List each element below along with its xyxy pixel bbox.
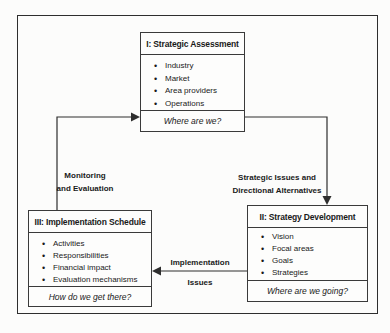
box-strategy-development: II: Strategy Development Vision Focal ar… xyxy=(247,205,368,302)
arrow-monitoring-line xyxy=(57,117,138,210)
arrow-label-line: and Evaluation xyxy=(40,182,130,195)
box-item-list: Industry Market Area providers Operation… xyxy=(141,55,244,110)
arrow-label-implementation-issues-top: Implementation xyxy=(158,256,242,269)
list-item: Area providers xyxy=(165,85,244,98)
arrow-label-implementation-issues-bottom: Issues xyxy=(158,276,242,289)
list-item: Strategies xyxy=(272,267,367,279)
box-title: III: Implementation Schedule xyxy=(29,211,151,233)
list-item: Focal areas xyxy=(272,243,367,255)
strategic-planning-cycle-diagram: I: Strategic Assessment Industry Market … xyxy=(0,0,390,333)
arrow-label-strategic-issues: Strategic Issues and Directional Alterna… xyxy=(221,171,333,197)
box-title: I: Strategic Assessment xyxy=(141,33,244,55)
box-footer-question: How do we get there? xyxy=(29,286,151,307)
list-item: Financial impact xyxy=(53,262,151,274)
arrow-label-line: Strategic Issues and xyxy=(221,171,333,184)
arrowhead-into-box-i xyxy=(131,113,140,122)
list-item: Evaluation mechanisms xyxy=(53,274,151,286)
arrow-label-line: Issues xyxy=(158,276,242,289)
list-item: Vision xyxy=(272,231,367,243)
box-implementation-schedule: III: Implementation Schedule Activities … xyxy=(28,210,152,307)
list-item: Goals xyxy=(272,255,367,267)
box-item-list: Activities Responsibilities Financial im… xyxy=(29,233,151,286)
list-item: Market xyxy=(165,73,244,86)
list-item: Operations xyxy=(165,98,244,111)
box-footer-question: Where are we? xyxy=(141,110,244,131)
box-footer-question: Where are we going? xyxy=(248,280,367,301)
list-item: Responsibilities xyxy=(53,250,151,262)
arrow-label-line: Directional Alternatives xyxy=(221,184,333,197)
list-item: Activities xyxy=(53,238,151,250)
arrowhead-into-box-ii xyxy=(323,196,332,205)
arrow-label-line: Implementation xyxy=(158,256,242,269)
box-title: II: Strategy Development xyxy=(248,206,367,228)
arrow-label-monitoring-and-evaluation: Monitoring and Evaluation xyxy=(40,169,130,195)
list-item: Industry xyxy=(165,60,244,73)
arrow-label-line: Monitoring xyxy=(40,169,130,182)
box-item-list: Vision Focal areas Goals Strategies xyxy=(248,228,367,280)
box-strategic-assessment: I: Strategic Assessment Industry Market … xyxy=(140,32,245,132)
